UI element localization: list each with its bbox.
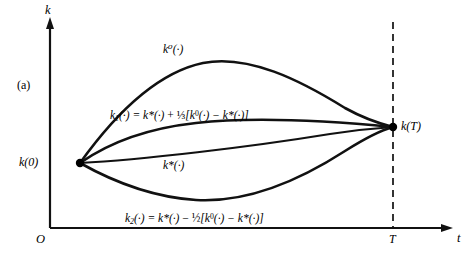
formula-k1-bracket-open: [k [185,109,195,121]
x-axis-arrowhead [441,224,453,232]
curve-label-k0: k⁰(·) [163,44,183,56]
curve-k-star [80,127,393,163]
formula-k2-lhs: (·) = k*(·) [134,212,182,224]
curves-group [80,61,393,200]
x-axis-label: t [457,232,460,245]
curve-label-k-star: k*(·) [163,160,184,172]
formula-k2: k2(·) = k*(·) − ½[k0(·) − k*(·)] [125,213,264,226]
formula-k2-bracket-mid: (·) − k*(·)] [214,212,264,224]
formula-k2-bracket-open: [k [200,212,210,224]
figure-panel-a: (a) k t O T k(0) k(T) k⁰(·) k*(·) k1(·) … [0,0,472,264]
initial-capital-label: k(0) [19,156,38,168]
y-axis-label: k [45,4,51,17]
formula-k1-lhs: (·) = k*(·) [119,109,167,121]
x-tick-label-T: T [389,233,396,245]
formula-k1-operator: + [167,109,174,121]
origin-label: O [36,233,45,246]
formula-k1-bracket-mid: (·) − k*(·)] [199,109,249,121]
curve-k1 [80,120,393,163]
formula-k1: k1(·) = k*(·) + ⅓[k0(·) − k*(·)] [110,110,249,123]
initial-capital-dot [76,159,84,167]
y-axis-arrowhead [46,17,54,29]
formula-k2-operator: − [182,212,189,224]
terminal-capital-label: k(T) [401,120,421,132]
terminal-capital-dot [389,123,397,131]
panel-label: (a) [17,79,30,91]
